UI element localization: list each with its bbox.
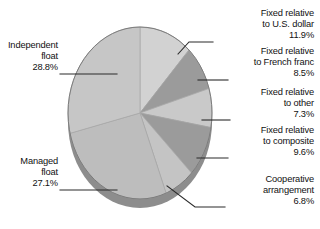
slice-label-franc: Fixed relative to French franc 8.5%: [254, 46, 314, 80]
slice-label-other: Fixed relative to other 7.3%: [261, 87, 314, 121]
slice-label-independent-line2: float: [2, 51, 58, 62]
pie-chart-figure: Fixed relative to U.S. dollar 11.9% Fixe…: [0, 0, 320, 229]
slice-label-managed-percent: 27.1%: [2, 178, 58, 189]
slice-label-other-line2: to other: [261, 98, 314, 109]
slice-label-cooperative-line2: arrangement: [263, 185, 314, 196]
slice-label-composite-line2: to composite: [261, 136, 314, 147]
slice-label-usd-line2: to U.S. dollar: [261, 19, 314, 30]
slice-label-cooperative-line1: Cooperative: [263, 174, 314, 185]
slice-label-franc-line2: to French franc: [254, 57, 314, 68]
slice-label-independent-line1: Independent: [2, 40, 58, 51]
slice-label-usd-line1: Fixed relative: [261, 8, 314, 19]
slice-label-other-line1: Fixed relative: [261, 87, 314, 98]
pie-wedges: [68, 27, 212, 199]
slice-label-composite-percent: 9.6%: [261, 147, 314, 158]
slice-label-independent-percent: 28.8%: [2, 62, 58, 73]
slice-label-franc-percent: 8.5%: [254, 68, 314, 79]
slice-label-other-percent: 7.3%: [261, 109, 314, 120]
slice-label-composite-line1: Fixed relative: [261, 125, 314, 136]
slice-label-franc-line1: Fixed relative: [254, 46, 314, 57]
slice-label-cooperative: Cooperative arrangement 6.8%: [263, 174, 314, 208]
slice-label-usd-percent: 11.9%: [261, 30, 314, 41]
slice-label-usd: Fixed relative to U.S. dollar 11.9%: [261, 8, 314, 42]
slice-label-managed-line2: float: [2, 167, 58, 178]
slice-label-managed-line1: Managed: [2, 156, 58, 167]
slice-label-composite: Fixed relative to composite 9.6%: [261, 125, 314, 159]
slice-label-managed: Managed float 27.1%: [2, 156, 58, 190]
slice-label-cooperative-percent: 6.8%: [263, 196, 314, 207]
slice-label-independent: Independent float 28.8%: [2, 40, 58, 74]
